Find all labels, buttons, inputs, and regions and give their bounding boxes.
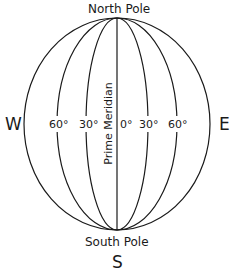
longitude-east-60: 60° <box>168 119 188 130</box>
north-pole-label: North Pole <box>88 3 150 15</box>
longitude-east-30: 30° <box>139 119 159 130</box>
longitude-west-60: 60° <box>49 119 69 130</box>
east-label: E <box>219 116 230 133</box>
south-pole-label: South Pole <box>85 236 149 248</box>
west-label: W <box>5 116 22 133</box>
longitude-west-30: 30° <box>79 119 99 130</box>
south-label: S <box>112 254 123 271</box>
longitude-0: 0° <box>120 119 133 130</box>
prime-meridian-label: Prime Meridian <box>103 79 114 169</box>
